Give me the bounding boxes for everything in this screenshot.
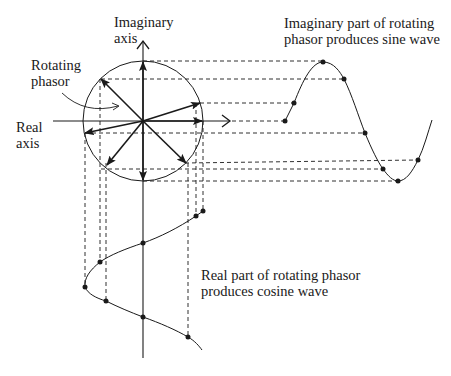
imaginary-axis-label-line1: Imaginary (114, 14, 174, 30)
cosine-caption-line1: Real part of rotating phasor (201, 267, 361, 283)
cosine-wave-dots (83, 209, 206, 340)
sine-wave-dots (283, 60, 421, 184)
sine-caption-line2: phasor produces sine wave (284, 31, 440, 47)
real-axis-label-line1: Real (16, 119, 43, 135)
sine-wave (285, 62, 432, 181)
imaginary-axis-label-line2: axis (114, 30, 138, 46)
cosine-projection-lines (85, 79, 203, 337)
phasor-diagram: Imaginary axis Rotating phasor Real axis… (0, 0, 451, 376)
rotating-phasor-pointer-icon (62, 93, 118, 109)
cosine-wave (85, 211, 203, 350)
cosine-caption-line2: produces cosine wave (201, 283, 328, 299)
rotating-phasor-label-line2: phasor (31, 73, 70, 89)
rotating-phasor-label-line1: Rotating (31, 57, 81, 73)
real-axis-label-line2: axis (16, 135, 40, 151)
sine-caption-line1: Imaginary part of rotating (284, 15, 434, 31)
